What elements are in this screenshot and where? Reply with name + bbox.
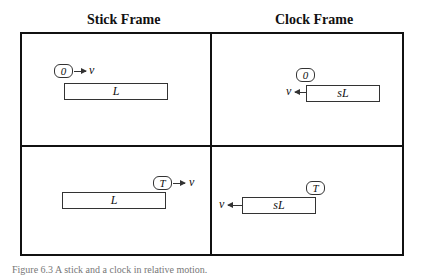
horizontal-divider [20, 145, 404, 147]
velocity-label: v [286, 84, 291, 99]
clock: T [306, 181, 325, 195]
stick: L [62, 192, 166, 209]
figure-caption: Figure 6.3 A stick and a clock in relati… [12, 264, 207, 275]
stick: sL [306, 85, 380, 102]
velocity-label: v [89, 63, 94, 78]
header-stick-frame: Stick Frame [87, 12, 160, 28]
stick: L [64, 83, 168, 100]
velocity-arrow-left-icon [228, 205, 242, 206]
velocity-label: v [219, 197, 224, 212]
velocity-label: v [189, 175, 194, 190]
diagram-frame [20, 32, 404, 256]
clock: T [153, 176, 172, 190]
header-clock-frame: Clock Frame [275, 12, 353, 28]
clock: 0 [54, 64, 73, 78]
vertical-divider [210, 32, 212, 256]
velocity-arrow-right-icon [173, 183, 185, 184]
clock: 0 [296, 68, 315, 82]
velocity-arrow-right-icon [74, 71, 86, 72]
stick: sL [242, 197, 316, 214]
